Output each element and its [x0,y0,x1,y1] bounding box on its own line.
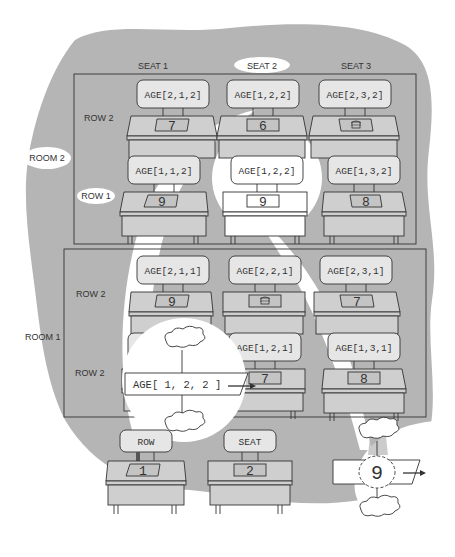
svg-text:AGE[2,2,1]: AGE[2,2,1] [236,266,293,277]
svg-text:8: 8 [362,195,370,210]
seat-header-1: SEAT 1 [138,61,168,71]
svg-text:AGE[1,1,2]: AGE[1,1,2] [135,166,192,177]
svg-text:7: 7 [353,295,361,310]
seat-2-2-2: AGE[1,2,2] 6 [217,80,307,158]
svg-text:9: 9 [259,195,267,210]
svg-text:ROW: ROW [137,437,154,448]
svg-text:AGE[2,3,1]: AGE[2,3,1] [327,266,384,277]
seat-1-3-1: AGE[1,3,1] 8 [322,333,406,421]
svg-text:AGE[2,1,1]: AGE[2,1,1] [144,266,201,277]
svg-text:AGE[2,1,2]: AGE[2,1,2] [144,90,201,101]
seat-2-1-2: AGE[2,1,2] 7 [127,80,217,158]
svg-text:2: 2 [246,464,254,479]
svg-text:9: 9 [158,195,166,210]
seat-header-3: SEAT 3 [341,61,371,71]
svg-text:AGE[1,2,2]: AGE[1,2,2] [234,90,291,101]
room-2-row-1-label: ROW 1 [81,191,111,201]
room-2-row-2-label: ROW 2 [84,113,114,123]
svg-text:SEAT: SEAT [239,437,262,448]
svg-text:1: 1 [139,464,147,479]
room-1-row-2-label: ROW 2 [76,289,106,299]
svg-text:6: 6 [259,119,267,134]
room-2-label: ROOM 2 [29,153,65,163]
seat-1-1-2: AGE[1,1,2] 9 [120,156,208,244]
room-1-row-1-label: ROW 2 [75,368,105,378]
seat-1-3-2: AGE[1,3,2] 8 [322,156,406,244]
school-array-diagram: SEAT 1 SEAT 2 SEAT 3 ROOM 2 ROW 2 ROW 1 … [0,0,455,557]
svg-text:AGE[2,3,2]: AGE[2,3,2] [326,90,383,101]
seat-2-3-2: AGE[2,3,2] [309,80,399,158]
seat-1-2-2: AGE[1,2,2] 9 [223,156,307,244]
svg-text:9: 9 [371,462,383,485]
svg-text:AGE[1,2,2]: AGE[1,2,2] [238,166,295,177]
seat-header-2: SEAT 2 [247,61,277,71]
seat-2-3-1: AGE[2,3,1] 7 [314,256,400,334]
room-1-label: ROOM 1 [25,332,61,342]
svg-text:AGE[1,2,1]: AGE[1,2,1] [236,343,293,354]
seat-2-2-1: AGE[2,2,1] [223,256,305,334]
svg-text:9: 9 [168,295,176,310]
svg-text:8: 8 [360,372,368,387]
svg-text:AGE[1,3,2]: AGE[1,3,2] [335,166,392,177]
svg-text:7: 7 [261,372,269,387]
svg-text:7: 7 [168,119,176,134]
svg-text:AGE[ 1, 2, 2 ]: AGE[ 1, 2, 2 ] [133,379,221,391]
svg-text:AGE[1,3,1]: AGE[1,3,1] [335,343,392,354]
